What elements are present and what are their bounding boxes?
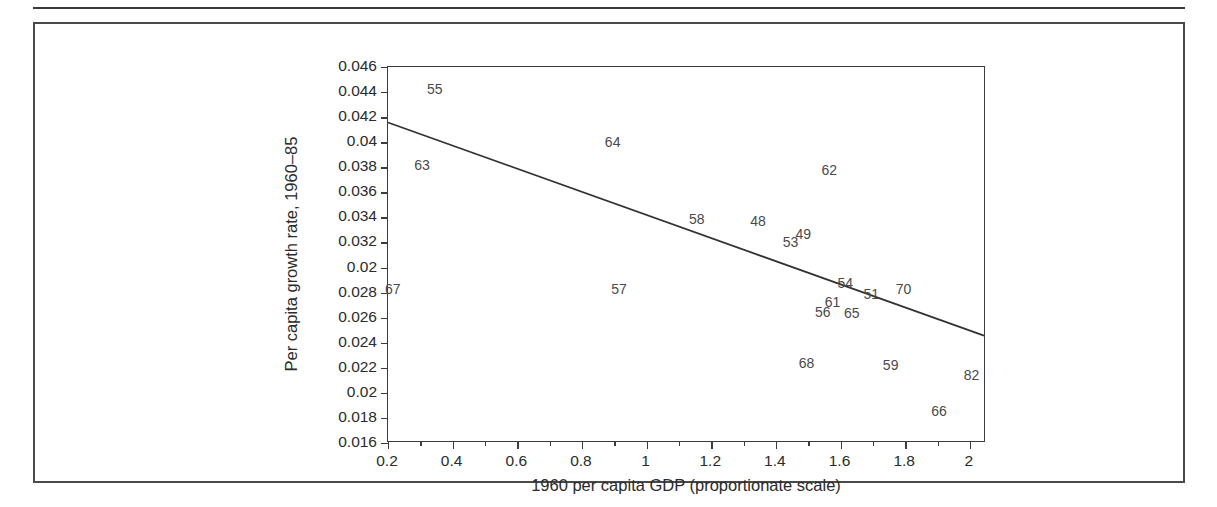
y-axis-tick-mark (381, 443, 388, 444)
data-point-label: 64 (605, 135, 621, 149)
plot-area: 5563646258484953675754517061566568598266 (387, 66, 985, 442)
data-point-label: 54 (838, 276, 854, 290)
y-axis-tick-label: 0.016 (338, 433, 377, 451)
x-axis-tick-mark (970, 441, 971, 449)
data-point-label: 66 (931, 404, 947, 418)
y-axis-tick-mark (381, 217, 388, 218)
x-axis-minor-tick-mark (420, 441, 421, 446)
y-axis-tick-mark (381, 167, 388, 168)
x-axis-minor-tick-mark (873, 441, 874, 446)
data-point-label: 68 (799, 356, 815, 370)
data-point-label: 62 (821, 163, 837, 177)
x-axis-tick-mark (582, 441, 583, 449)
figure-border-box: 0.0460.0440.0420.040.0380.0360.0340.0320… (33, 22, 1185, 483)
data-point-label: 58 (689, 212, 705, 226)
y-axis-tick-labels: 0.0460.0440.0420.040.0380.0360.0340.0320… (335, 66, 377, 442)
data-point-label: 67 (385, 282, 401, 296)
data-point-label: 82 (964, 368, 980, 382)
y-axis-tick-label: 0.04 (347, 132, 377, 150)
y-axis-tick-label: 0.02 (347, 258, 377, 276)
x-axis-minor-tick-mark (744, 441, 745, 446)
y-axis-tick-mark (381, 242, 388, 243)
x-axis-tick-label: 1.2 (699, 452, 721, 470)
x-axis-minor-tick-mark (614, 441, 615, 446)
y-axis-tick-label: 0.036 (338, 182, 377, 200)
y-axis-tick-mark (381, 192, 388, 193)
y-axis-tick-mark (381, 268, 388, 269)
figure-page: 0.0460.0440.0420.040.0380.0360.0340.0320… (0, 0, 1217, 507)
x-axis-tick-labels: 0.20.40.60.811.21.41.61.82 (387, 452, 985, 474)
top-horizontal-rule (33, 7, 1185, 9)
y-axis-tick-mark (381, 393, 388, 394)
x-axis-tick-mark (711, 441, 712, 449)
data-point-label: 51 (863, 287, 879, 301)
y-axis-tick-label: 0.032 (338, 232, 377, 250)
x-axis-tick-label: 0.4 (441, 452, 463, 470)
x-axis-tick-mark (647, 441, 648, 449)
data-point-label: 53 (783, 235, 799, 249)
y-axis-tick-label: 0.038 (338, 157, 377, 175)
x-axis-tick-label: 1 (641, 452, 650, 470)
x-axis-tick-mark (517, 441, 518, 449)
y-axis-tick-mark (381, 343, 388, 344)
x-axis-tick-mark (388, 441, 389, 449)
data-point-label: 55 (427, 82, 443, 96)
x-axis-minor-tick-mark (679, 441, 680, 446)
y-axis-tick-label: 0.042 (338, 107, 377, 125)
x-axis-minor-tick-mark (550, 441, 551, 446)
x-axis-tick-mark (841, 441, 842, 449)
data-point-label: 65 (844, 306, 860, 320)
data-point-label: 63 (414, 158, 430, 172)
data-point-label: 57 (611, 282, 627, 296)
x-axis-tick-label: 1.8 (893, 452, 915, 470)
y-axis-tick-label: 0.044 (338, 82, 377, 100)
x-axis-tick-label: 1.4 (764, 452, 786, 470)
y-axis-tick-mark (381, 67, 388, 68)
y-axis-tick-mark (381, 368, 388, 369)
regression-line (388, 67, 984, 441)
x-axis-tick-label: 1.6 (829, 452, 851, 470)
y-axis-tick-label: 0.022 (338, 358, 377, 376)
y-axis-tick-label: 0.026 (338, 308, 377, 326)
y-axis-tick-mark (381, 318, 388, 319)
data-point-label: 56 (815, 305, 831, 319)
y-axis-tick-label: 0.024 (338, 333, 377, 351)
y-axis-tick-label: 0.018 (338, 408, 377, 426)
data-point-label: 59 (883, 358, 899, 372)
x-axis-minor-tick-mark (485, 441, 486, 446)
y-axis-title: Per capita growth rate, 1960–85 (282, 66, 308, 442)
y-axis-tick-label: 0.046 (338, 57, 377, 75)
y-axis-tick-label: 0.034 (338, 207, 377, 225)
y-axis-tick-label: 0.02 (347, 383, 377, 401)
x-axis-tick-mark (905, 441, 906, 449)
x-axis-tick-label: 0.6 (506, 452, 528, 470)
x-axis-minor-tick-mark (808, 441, 809, 446)
y-axis-tick-mark (381, 117, 388, 118)
x-axis-tick-label: 0.8 (570, 452, 592, 470)
x-axis-tick-label: 2 (965, 452, 974, 470)
x-axis-tick-label: 0.2 (376, 452, 398, 470)
data-point-label: 70 (896, 282, 912, 296)
y-axis-tick-mark (381, 92, 388, 93)
x-axis-minor-tick-mark (938, 441, 939, 446)
x-axis-tick-mark (776, 441, 777, 449)
x-axis-tick-mark (453, 441, 454, 449)
y-axis-tick-mark (381, 142, 388, 143)
data-point-label: 48 (750, 214, 766, 228)
y-axis-tick-label: 0.028 (338, 283, 377, 301)
y-axis-tick-mark (381, 418, 388, 419)
x-axis-title: 1960 per capita GDP (proportionate scale… (387, 476, 985, 495)
